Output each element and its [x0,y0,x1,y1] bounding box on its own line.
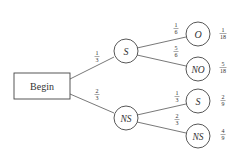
svg-text:1: 1 [96,50,99,56]
edge-prob-begin-s: 1 3 [95,50,100,63]
svg-text:1: 1 [175,22,178,28]
svg-text:6: 6 [175,29,178,35]
node-no: NO [186,57,210,81]
node-ns: NS [114,106,138,130]
svg-text:6: 6 [175,52,178,58]
node-ns2-label: NS [191,132,203,142]
svg-text:1: 1 [176,90,179,96]
svg-text:9: 9 [222,135,225,141]
edge-begin-ns [70,94,114,113]
svg-text:3: 3 [96,95,99,101]
svg-text:1: 1 [222,27,225,33]
edge-ns-ns [137,122,186,133]
svg-text:3: 3 [176,97,179,103]
edge-s-no [137,55,186,66]
edge-prob-ns-ns: 2 3 [175,113,180,126]
node-s2: S [186,89,210,113]
svg-text:3: 3 [96,57,99,63]
outcome-prob-ns2: 4 9 [221,128,226,141]
edge-s-o [137,37,186,48]
node-s-label: S [124,46,129,57]
edge-prob-ns-s: 1 3 [175,90,180,103]
node-s2-label: S [196,96,201,107]
node-begin: Begin [14,73,70,99]
node-begin-label: Begin [30,81,54,92]
node-ns2: NS [186,124,210,148]
svg-text:9: 9 [222,101,225,107]
svg-text:2: 2 [176,113,179,119]
svg-text:5: 5 [175,45,178,51]
svg-text:18: 18 [220,68,226,74]
svg-text:4: 4 [222,128,225,134]
edge-prob-s-no: 5 6 [174,45,179,58]
node-no-label: NO [190,65,204,75]
svg-text:5: 5 [222,61,225,67]
edge-begin-s [70,57,114,79]
svg-text:2: 2 [222,94,225,100]
edge-prob-s-o: 1 6 [174,22,179,35]
svg-text:18: 18 [220,34,226,40]
node-s: S [114,39,138,63]
probability-tree-diagram: Begin S NS O NO S NS 1 3 2 3 [0,0,236,160]
edge-prob-begin-ns: 2 3 [95,88,100,101]
node-o-label: O [194,29,201,40]
svg-text:3: 3 [176,120,179,126]
edge-ns-s [137,104,186,115]
outcome-prob-s2: 2 9 [221,94,226,107]
outcome-prob-o: 1 18 [220,27,227,40]
svg-text:2: 2 [96,88,99,94]
node-ns-label: NS [119,114,131,124]
node-o: O [186,22,210,46]
outcome-prob-no: 5 18 [220,61,227,74]
